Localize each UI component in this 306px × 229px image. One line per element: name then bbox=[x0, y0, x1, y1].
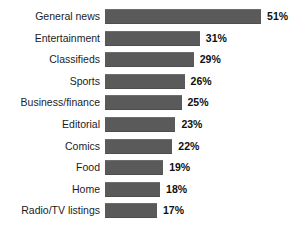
bar bbox=[105, 182, 160, 197]
value-label: 23% bbox=[181, 117, 202, 132]
category-label: Radio/TV listings bbox=[0, 203, 100, 218]
bar-row: Classifieds29% bbox=[0, 52, 306, 67]
bar-row: Home18% bbox=[0, 182, 306, 197]
category-label: Classifieds bbox=[0, 52, 100, 67]
bar bbox=[105, 31, 200, 46]
plot-area: General news51%Entertainment31%Classifie… bbox=[0, 0, 306, 229]
bar-fill bbox=[105, 182, 160, 197]
bar-fill bbox=[105, 31, 200, 46]
value-label: 19% bbox=[169, 160, 190, 175]
category-label: Entertainment bbox=[0, 31, 100, 46]
bar-fill bbox=[105, 117, 175, 132]
value-label: 17% bbox=[163, 203, 184, 218]
value-label: 51% bbox=[267, 9, 288, 24]
bar-row: General news51% bbox=[0, 9, 306, 24]
bar-fill bbox=[105, 74, 185, 89]
category-label: Sports bbox=[0, 74, 100, 89]
bar-row: Entertainment31% bbox=[0, 31, 306, 46]
value-label: 29% bbox=[200, 52, 221, 67]
bar-row: Food19% bbox=[0, 160, 306, 175]
bar-row: Sports26% bbox=[0, 74, 306, 89]
category-label: Editorial bbox=[0, 117, 100, 132]
value-label: 25% bbox=[188, 95, 209, 110]
category-label: Home bbox=[0, 182, 100, 197]
value-label: 18% bbox=[166, 182, 187, 197]
bar-fill bbox=[105, 52, 194, 67]
bar bbox=[105, 9, 261, 24]
bar bbox=[105, 52, 194, 67]
bar-chart: General news51%Entertainment31%Classifie… bbox=[0, 0, 306, 229]
category-label: Business/finance bbox=[0, 95, 100, 110]
value-label: 26% bbox=[191, 74, 212, 89]
bar bbox=[105, 95, 182, 110]
bar-fill bbox=[105, 139, 172, 154]
bar bbox=[105, 139, 172, 154]
bar-fill bbox=[105, 95, 182, 110]
bar-row: Radio/TV listings17% bbox=[0, 203, 306, 218]
bar-row: Business/finance25% bbox=[0, 95, 306, 110]
category-label: Comics bbox=[0, 139, 100, 154]
bar bbox=[105, 117, 175, 132]
bar-fill bbox=[105, 160, 163, 175]
category-label: Food bbox=[0, 160, 100, 175]
bar bbox=[105, 203, 157, 218]
bar-row: Comics22% bbox=[0, 139, 306, 154]
value-label: 31% bbox=[206, 31, 227, 46]
value-label: 22% bbox=[178, 139, 199, 154]
bar bbox=[105, 160, 163, 175]
bar-fill bbox=[105, 203, 157, 218]
bar-row: Editorial23% bbox=[0, 117, 306, 132]
bar bbox=[105, 74, 185, 89]
category-label: General news bbox=[0, 9, 100, 24]
bar-fill bbox=[105, 9, 261, 24]
